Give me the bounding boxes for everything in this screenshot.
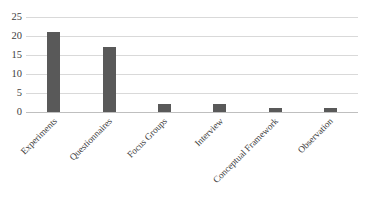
- x-axis-tick-label: Questionnaires: [68, 116, 115, 163]
- x-axis-tick-label-text: Focus Groups: [126, 116, 170, 160]
- y-axis-tick-label: 5: [0, 88, 22, 99]
- x-axis-tick-label: Observation: [296, 116, 335, 155]
- bar: [158, 104, 171, 112]
- bar: [213, 104, 226, 112]
- y-axis-tick-label: 0: [0, 107, 22, 118]
- y-axis-tick-label: 25: [0, 12, 22, 23]
- y-axis-tick-label: 10: [0, 69, 22, 80]
- y-axis-tick-label: 15: [0, 50, 22, 61]
- y-axis: 0510152025: [0, 17, 22, 112]
- x-axis-tick-label-text: Observation: [296, 116, 335, 155]
- x-axis-tick-label: Experiments: [18, 116, 58, 156]
- bar-chart: 0510152025 ExperimentsQuestionnairesFocu…: [0, 0, 372, 219]
- bars-layer: [26, 17, 358, 112]
- x-axis-tick-label: Focus Groups: [126, 116, 170, 160]
- x-axis-tick-label-text: Questionnaires: [68, 116, 115, 163]
- bar: [47, 32, 60, 112]
- x-axis-tick-label: Interview: [192, 116, 224, 148]
- y-axis-tick-label: 20: [0, 31, 22, 42]
- bar: [103, 47, 116, 112]
- x-axis-tick-label-text: Interview: [192, 116, 224, 148]
- x-axis-tick-label-text: Experiments: [18, 116, 58, 156]
- x-axis: ExperimentsQuestionnairesFocus GroupsInt…: [26, 112, 358, 219]
